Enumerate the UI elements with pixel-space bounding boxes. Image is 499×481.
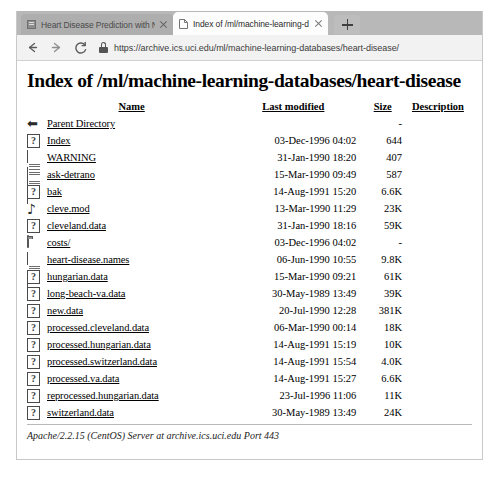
row-name-cell[interactable]: Index: [47, 132, 230, 149]
table-header-row: Name Last modified Size Description: [27, 101, 472, 115]
file-link[interactable]: long-beach-va.data: [47, 288, 125, 299]
header-description-label: Description: [412, 101, 464, 112]
row-icon-cell: ?: [27, 285, 47, 302]
lock-icon: [99, 42, 108, 53]
unknown-file-icon: ?: [27, 372, 42, 386]
file-modified: 13-Mar-1990 11:29: [274, 203, 356, 214]
file-link[interactable]: processed.switzerland.data: [47, 356, 157, 367]
row-icon-cell: ⬅: [27, 115, 47, 132]
file-link[interactable]: cleve.mod: [47, 203, 90, 214]
address-bar[interactable]: https://archive.ics.uci.edu/ml/machine-l…: [99, 38, 476, 57]
header-last-modified[interactable]: Last modified: [230, 101, 363, 115]
row-name-cell[interactable]: costs/: [47, 234, 230, 251]
back-button[interactable]: [23, 38, 42, 57]
file-link[interactable]: cleveland.data: [47, 220, 106, 231]
row-name-cell[interactable]: long-beach-va.data: [47, 285, 230, 302]
table-row: ?cleveland.data31-Jan-1990 18:1659K: [27, 217, 472, 234]
table-row: ?reprocessed.hungarian.data23-Jul-1996 1…: [27, 387, 472, 404]
row-description-cell: [412, 166, 472, 183]
row-icon-cell: ?: [27, 353, 47, 370]
row-modified-cell: 30-May-1989 13:49: [230, 404, 363, 421]
file-link[interactable]: switzerland.data: [47, 407, 114, 418]
row-name-cell[interactable]: Parent Directory: [47, 115, 230, 132]
file-modified: 20-Jul-1990 12:28: [279, 305, 356, 316]
file-link[interactable]: processed.cleveland.data: [47, 322, 149, 333]
row-name-cell[interactable]: reprocessed.hungarian.data: [47, 387, 230, 404]
unknown-file-icon: ?: [27, 304, 42, 318]
file-size: -: [399, 237, 403, 248]
row-name-cell[interactable]: processed.va.data: [47, 370, 230, 387]
table-row: ?hungarian.data15-Mar-1990 09:2161K: [27, 268, 472, 285]
row-name-cell[interactable]: bak: [47, 183, 230, 200]
file-link[interactable]: bak: [47, 186, 62, 197]
row-description-cell: [412, 319, 472, 336]
header-name[interactable]: Name: [47, 101, 230, 115]
file-modified: 30-May-1989 13:49: [272, 407, 356, 418]
tab-strip: Heart Disease Prediction with Ne Index o…: [17, 11, 482, 35]
row-name-cell[interactable]: processed.hungarian.data: [47, 336, 230, 353]
row-icon-cell: ?: [27, 268, 47, 285]
row-size-cell: 381K: [363, 302, 412, 319]
file-link[interactable]: Parent Directory: [47, 118, 115, 129]
file-size: 39K: [384, 288, 402, 299]
row-size-cell: 644: [363, 132, 412, 149]
row-name-cell[interactable]: cleve.mod: [47, 200, 230, 217]
file-link[interactable]: heart-disease.names: [47, 254, 129, 265]
row-name-cell[interactable]: heart-disease.names: [47, 251, 230, 268]
row-name-cell[interactable]: switzerland.data: [47, 404, 230, 421]
row-icon-cell: ?: [27, 302, 47, 319]
new-tab-button[interactable]: [334, 15, 360, 34]
row-modified-cell: 06-Jun-1990 10:55: [230, 251, 363, 268]
row-description-cell: [412, 251, 472, 268]
table-row: ?processed.switzerland.data14-Aug-1991 1…: [27, 353, 472, 370]
close-icon[interactable]: [158, 19, 169, 30]
browser-tab-active[interactable]: Index of /ml/machine-learning-d: [173, 12, 328, 35]
file-link[interactable]: reprocessed.hungarian.data: [47, 390, 159, 401]
sound-file-icon: ♪: [27, 202, 42, 216]
forward-button[interactable]: [47, 38, 66, 57]
unknown-file-icon: ?: [27, 185, 42, 199]
file-size: 11K: [384, 390, 402, 401]
file-link[interactable]: processed.va.data: [47, 373, 119, 384]
row-name-cell[interactable]: new.data: [47, 302, 230, 319]
file-modified: 14-Aug-1991 15:54: [273, 356, 356, 367]
unknown-file-icon: ?: [27, 134, 42, 148]
file-link[interactable]: new.data: [47, 305, 83, 316]
reload-button[interactable]: [71, 38, 90, 57]
row-size-cell: -: [363, 234, 412, 251]
file-link[interactable]: costs/: [47, 237, 70, 248]
file-link[interactable]: WARNING: [47, 152, 96, 163]
row-name-cell[interactable]: WARNING: [47, 149, 230, 166]
row-icon-cell: [27, 234, 47, 251]
header-last-modified-label: Last modified: [262, 101, 324, 112]
file-modified: 14-Aug-1991 15:20: [273, 186, 356, 197]
row-name-cell[interactable]: processed.cleveland.data: [47, 319, 230, 336]
row-size-cell: 6.6K: [363, 183, 412, 200]
file-size: 587: [386, 169, 402, 180]
header-description[interactable]: Description: [412, 101, 472, 115]
file-size: 24K: [384, 407, 402, 418]
tab-title-active: Index of /ml/machine-learning-d: [193, 19, 310, 29]
row-description-cell: [412, 234, 472, 251]
file-link[interactable]: ask-detrano: [47, 169, 95, 180]
file-link[interactable]: Index: [47, 135, 70, 146]
file-modified: 31-Jan-1990 18:16: [277, 220, 356, 231]
browser-tab-inactive[interactable]: Heart Disease Prediction with Ne: [21, 14, 173, 35]
file-link[interactable]: processed.hungarian.data: [47, 339, 151, 350]
row-modified-cell: 13-Mar-1990 11:29: [230, 200, 363, 217]
table-row: ?long-beach-va.data30-May-1989 13:4939K: [27, 285, 472, 302]
text-file-icon: [27, 168, 42, 182]
row-name-cell[interactable]: processed.switzerland.data: [47, 353, 230, 370]
header-size[interactable]: Size: [363, 101, 412, 115]
row-description-cell: [412, 268, 472, 285]
row-name-cell[interactable]: ask-detrano: [47, 166, 230, 183]
row-size-cell: 11K: [363, 387, 412, 404]
close-icon[interactable]: [313, 18, 324, 29]
row-name-cell[interactable]: cleveland.data: [47, 217, 230, 234]
file-link[interactable]: hungarian.data: [47, 271, 108, 282]
row-name-cell[interactable]: hungarian.data: [47, 268, 230, 285]
row-size-cell: 407: [363, 149, 412, 166]
file-size: 23K: [384, 203, 402, 214]
table-row: ?switzerland.data30-May-1989 13:4924K: [27, 404, 472, 421]
unknown-file-icon: ?: [27, 355, 42, 369]
